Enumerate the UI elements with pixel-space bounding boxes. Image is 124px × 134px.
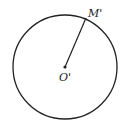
- point-label: M': [87, 7, 102, 20]
- center-label: O': [59, 71, 71, 84]
- circle-diagram: O' M': [0, 0, 124, 134]
- radius-line: [65, 18, 86, 67]
- center-point: [63, 65, 66, 68]
